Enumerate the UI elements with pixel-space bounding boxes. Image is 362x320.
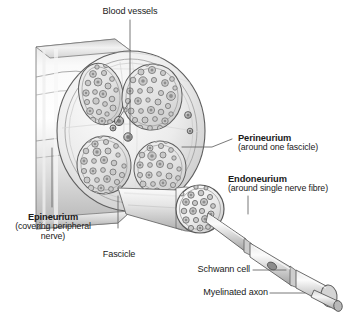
nerve-anatomy-figure: Blood vessels Perineurium (around one fa… [0, 0, 362, 320]
label-schwann-cell: Schwann cell [178, 264, 250, 274]
label-perineurium-subtitle: (around one fascicle) [238, 143, 318, 153]
magnification-bridge [118, 188, 182, 230]
label-perineurium: Perineurium (around one fascicle) [238, 133, 318, 153]
label-epineurium: Epineurium (covering peripheral nerve) [3, 212, 103, 242]
myelinated-axon [206, 213, 343, 312]
label-fascicle: Fascicle [94, 249, 144, 259]
label-myelinated-axon: Myelinated axon [178, 287, 268, 297]
label-endoneurium-subtitle: (around single nerve fibre) [228, 184, 328, 194]
label-blood-vessels: Blood vessels [90, 6, 170, 16]
label-endoneurium: Endoneurium (around single nerve fibre) [228, 174, 328, 194]
label-epineurium-subtitle-line2: nerve) [3, 232, 103, 242]
